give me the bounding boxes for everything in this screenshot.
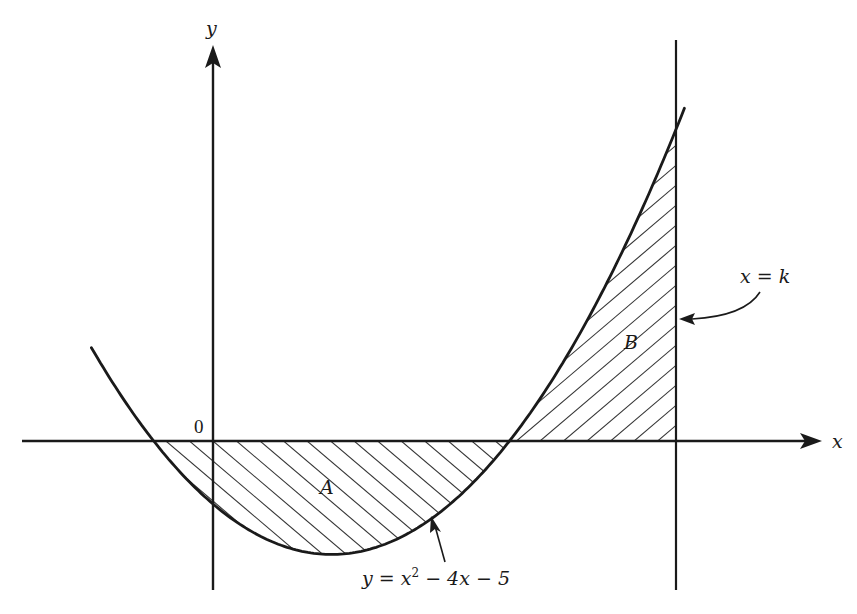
- hatch-line: [0, 0, 857, 120]
- hatch-line: [0, 0, 857, 428]
- hatch-line: [0, 292, 857, 614]
- hatch-line: [0, 252, 857, 614]
- hatch-line: [0, 0, 857, 460]
- hatch-line: [0, 0, 857, 468]
- hatch-line: [0, 0, 857, 440]
- hatch-line: [0, 480, 857, 614]
- hatch-line: [0, 0, 857, 448]
- hatch-line: [0, 0, 857, 20]
- hatch-line: [0, 52, 857, 614]
- hatch-line: [0, 0, 857, 508]
- hatch-line: [0, 0, 857, 8]
- hatch-line: [0, 472, 857, 614]
- hatch-line: [0, 0, 857, 68]
- hatch-line: [0, 0, 857, 140]
- hatch-line: [0, 0, 857, 528]
- x-equals-k-pointer-arrow: [692, 292, 760, 319]
- hatch-line: [0, 0, 857, 420]
- hatch-line: [0, 0, 857, 228]
- curve-equation-label: y = x2 − 4x − 5: [361, 566, 510, 589]
- hatch-line: [0, 0, 857, 540]
- hatch-line: [0, 0, 857, 288]
- hatch-line: [0, 232, 857, 614]
- hatch-line: [0, 0, 857, 88]
- parabola-area-diagram: x y 0 A B x = k y = x2 − 4x − 5: [0, 0, 857, 614]
- hatch-line: [0, 0, 857, 588]
- parabola-curve: [91, 108, 684, 554]
- x-axis-label: x: [832, 430, 843, 452]
- hatch-line: [0, 0, 857, 260]
- hatch-line: [0, 0, 857, 308]
- hatch-line: [0, 0, 857, 300]
- region-a-label: A: [318, 476, 334, 498]
- hatch-line: [0, 120, 857, 614]
- hatch-line: [0, 492, 857, 614]
- hatch-line: [0, 0, 857, 200]
- hatch-line: [0, 0, 857, 600]
- hatch-line: [0, 112, 857, 614]
- hatch-line: [0, 0, 857, 548]
- hatch-line: [0, 220, 857, 614]
- hatch-line: [0, 0, 857, 580]
- hatch-line: [0, 0, 857, 248]
- hatch-line: [0, 0, 857, 568]
- hatch-line: [0, 92, 857, 614]
- region-b-label: B: [623, 331, 638, 353]
- hatch-line: [0, 72, 857, 614]
- hatch-line: [0, 80, 857, 614]
- hatch-line: [0, 212, 857, 614]
- hatch-line: [0, 172, 857, 614]
- hatch-line: [0, 20, 857, 614]
- hatch-line: [0, 0, 857, 208]
- hatch-line: [0, 0, 857, 128]
- hatch-line: [0, 100, 857, 614]
- hatch-line: [0, 0, 857, 148]
- hatch-line: [0, 0, 857, 220]
- hatch-line: [0, 0, 857, 500]
- hatch-line: [0, 592, 857, 614]
- hatch-line: [0, 0, 857, 348]
- hatch-line: [0, 0, 857, 160]
- hatch-line: [0, 0, 857, 560]
- hatch-line: [0, 500, 857, 614]
- hatch-line: [0, 280, 857, 614]
- origin-label: 0: [194, 416, 204, 437]
- hatch-line: [0, 0, 857, 388]
- hatch-line: [0, 0, 857, 488]
- hatch-line: [0, 152, 857, 614]
- hatch-line: [0, 140, 857, 614]
- hatch-line: [0, 192, 857, 614]
- hatch-line: [0, 132, 857, 614]
- hatch-line: [0, 0, 857, 608]
- hatch-line: [0, 0, 857, 108]
- hatch-line: [0, 0, 857, 408]
- hatch-line: [0, 0, 857, 268]
- hatch-line: [0, 0, 857, 380]
- hatch-line: [0, 40, 857, 614]
- hatch-line: [0, 0, 857, 28]
- hatch-line: [0, 0, 857, 340]
- hatch-line: [0, 0, 857, 60]
- y-axis-label: y: [205, 17, 217, 39]
- hatch-line: [0, 0, 857, 280]
- hatch-line: [0, 0, 857, 400]
- hatch-line: [0, 240, 857, 614]
- hatch-line: [0, 460, 857, 614]
- hatch-line: [0, 0, 857, 80]
- hatch-line: [0, 0, 857, 360]
- hatch-line: [0, 0, 857, 100]
- hatch-line: [0, 0, 857, 180]
- hatch-line: [0, 0, 857, 320]
- vertical-line-label: x = k: [740, 265, 790, 287]
- hatch-line: [0, 160, 857, 614]
- hatch-line: [0, 272, 857, 614]
- hatch-line: [0, 0, 857, 48]
- hatch-line: [0, 0, 857, 168]
- hatch-line: [0, 0, 857, 40]
- hatch-line: [0, 512, 857, 614]
- hatch-line: [0, 452, 857, 614]
- hatch-line: [0, 600, 857, 614]
- hatch-line: [0, 0, 857, 188]
- hatch-line: [0, 60, 857, 614]
- hatch-line: [0, 180, 857, 614]
